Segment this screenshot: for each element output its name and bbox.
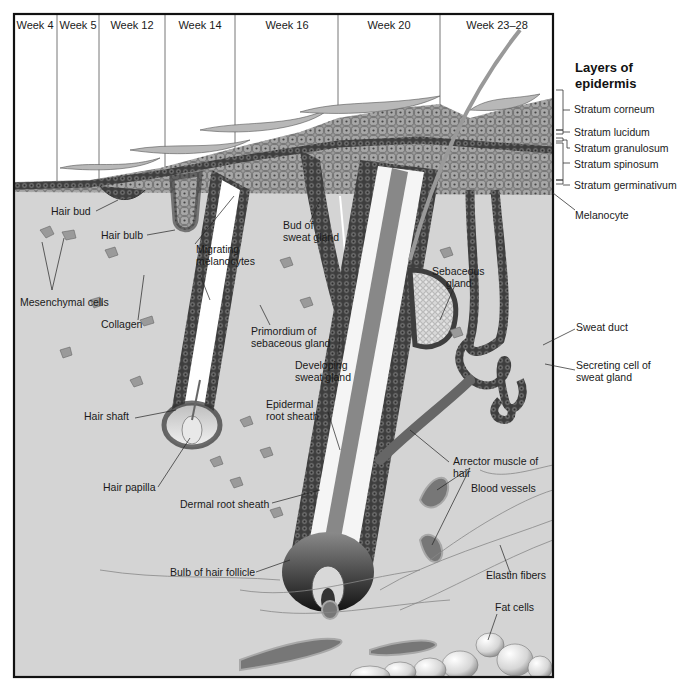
hair-bulb-peg	[172, 174, 200, 230]
label-collagen: Collagen	[101, 318, 143, 330]
label-migrating-melanocytes-2: melanocytes	[196, 255, 255, 267]
label-arrector-muscle-1: Arrector muscle of	[453, 455, 538, 467]
label-hair-bulb: Hair bulb	[101, 229, 143, 241]
epidermis-legend: Layers of epidermis Stratum corneum Stra…	[553, 60, 677, 221]
label-epidermal-root-sheath-1: Epidermal	[266, 398, 313, 410]
layer-stratum-corneum: Stratum corneum	[574, 103, 655, 115]
label-mesenchymal-cells: Mesenchymal cells	[20, 296, 109, 308]
layer-stratum-granulosum: Stratum granulosum	[574, 142, 669, 154]
label-sebaceous-gland-1: Sebaceous	[432, 265, 485, 277]
label-blood-vessels: Blood vessels	[471, 482, 536, 494]
label-developing-sweat-gland-2: sweat gland	[295, 371, 351, 383]
label-developing-sweat-gland-1: Developing	[295, 359, 348, 371]
label-elastin-fibers: Elastin fibers	[486, 569, 546, 581]
week-label: Week 12	[110, 19, 153, 31]
label-epidermal-root-sheath-2: root sheath	[266, 410, 319, 422]
label-primordium-1: Primordium of	[251, 325, 316, 337]
label-secreting-cell-1: Secreting cell of	[576, 359, 651, 371]
week-label: Week 20	[367, 19, 410, 31]
week-label: Week 16	[265, 19, 308, 31]
label-primordium-2: sebaceous gland	[251, 337, 331, 349]
label-melanocyte: Melanocyte	[575, 209, 629, 221]
legend-title-line1: Layers of	[575, 60, 633, 75]
label-bud-sweat-gland-2: sweat gland	[283, 231, 339, 243]
label-hair-papilla: Hair papilla	[103, 481, 156, 493]
layer-stratum-lucidum: Stratum lucidum	[574, 126, 650, 138]
label-arrector-muscle-2: hair	[453, 467, 471, 479]
label-sweat-duct: Sweat duct	[576, 321, 628, 333]
week-label: Week 5	[59, 19, 96, 31]
label-bulb-of-hair-follicle: Bulb of hair follicle	[170, 566, 255, 578]
label-fat-cells: Fat cells	[495, 601, 534, 613]
label-dermal-root-sheath: Dermal root sheath	[180, 498, 269, 510]
hair-follicle-development-diagram: Week 4 Week 5 Week 12 Week 14 Week 16 We…	[0, 0, 691, 690]
label-hair-shaft: Hair shaft	[84, 410, 129, 422]
week-label: Week 4	[16, 19, 53, 31]
label-hair-bud: Hair bud	[51, 205, 91, 217]
legend-brackets	[553, 90, 575, 210]
label-bud-sweat-gland-1: Bud of	[283, 219, 313, 231]
legend-title-line2: epidermis	[575, 76, 636, 91]
week-label: Week 14	[178, 19, 221, 31]
week-label: Week 23–28	[466, 19, 528, 31]
layer-stratum-spinosum: Stratum spinosum	[574, 158, 659, 170]
layer-stratum-germinativum: Stratum germinativum	[574, 179, 677, 191]
label-sebaceous-gland-2: gland	[446, 277, 472, 289]
label-secreting-cell-2: sweat gland	[576, 371, 632, 383]
label-migrating-melanocytes-1: Migrating	[196, 243, 239, 255]
